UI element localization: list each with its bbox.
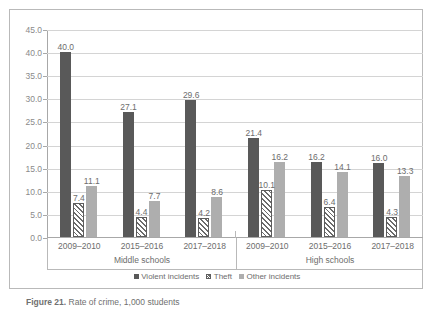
gridline [47,76,423,77]
bar-theft [324,207,335,237]
gridline [47,30,423,31]
x-axis-category-band: 2009–20102015–20162017–20182009–20102015… [47,238,423,270]
y-axis-tick-label: 20.0 [25,141,42,151]
bar-value-label: 13.3 [397,166,414,176]
y-axis-tick-label: 40.0 [25,48,42,58]
bar-value-label: 6.4 [324,197,336,207]
x-axis-group-label: High schools [306,255,355,265]
x-axis-period-label: 2009–2010 [58,241,101,251]
y-axis-tick-label: 10.0 [25,187,42,197]
x-axis-group-separator-tick [235,231,236,238]
bar-violent [311,162,322,237]
gridline [47,99,423,100]
bar-value-label: 10.1 [259,180,276,190]
gridline [47,146,423,147]
x-axis-period-label: 2017–2018 [183,241,226,251]
y-axis-tick-label: 35.0 [25,71,42,81]
legend-item[interactable]: Violent incidents [134,272,200,281]
figure-frame: 45.040.035.030.025.020.015.010.05.00.0 4… [9,9,423,289]
bar-violent [185,100,196,237]
bar-value-label: 16.2 [272,152,289,162]
y-axis-tick-mark [43,169,47,170]
bar-value-label: 11.1 [84,176,100,186]
bar-value-label: 14.1 [334,162,351,172]
legend-item[interactable]: Theft [206,272,232,281]
bar-value-label: 27.1 [120,102,137,112]
y-axis-tick-label: 45.0 [25,25,42,35]
x-axis-group-label: Middle schools [114,255,170,265]
bar-value-label: 4.3 [386,207,398,217]
bar-value-label: 4.4 [136,207,148,217]
figure-caption: Figure 21. Rate of crime, 1,000 students [26,297,426,309]
legend-swatch-icon [206,274,211,279]
gridline [47,53,423,54]
bar-theft [386,217,397,237]
bar-other [274,162,285,237]
x-axis-period-label: 2017–2018 [371,241,414,251]
bar-violent [123,112,134,237]
bar-other [149,201,160,237]
legend-item[interactable]: Other incidents [239,272,300,281]
bar-violent [373,163,384,237]
bar-violent [60,52,71,237]
bar-theft [198,218,209,237]
legend-item-label: Violent incidents [141,272,199,281]
y-axis-tick-label: 15.0 [25,164,42,174]
y-axis-tick-label: 0.0 [30,233,42,243]
bar-value-label: 40.0 [58,42,75,52]
chart-legend: Violent incidentsTheftOther incidents [10,272,424,281]
y-axis-tick-mark [43,76,47,77]
bar-value-label: 21.4 [246,128,263,138]
gridline [47,122,423,123]
y-axis-line [47,30,48,238]
x-axis-period-label: 2015–2016 [121,241,164,251]
y-axis-tick-mark [43,192,47,193]
y-axis-tick-mark [43,215,47,216]
x-axis-period-label: 2009–2010 [246,241,289,251]
bar-theft [261,190,272,237]
bar-other [337,172,348,237]
chart-plot-area: 45.040.035.030.025.020.015.010.05.00.0 4… [47,30,423,238]
legend-item-label: Theft [214,272,232,281]
bar-value-label: 7.7 [149,191,161,201]
legend-swatch-icon [239,274,244,279]
y-axis-tick-mark [43,99,47,100]
figure-caption-text: Rate of crime, 1,000 students [69,297,180,307]
figure-caption-number: Figure 21. [26,297,66,307]
y-axis-tick-label: 30.0 [25,94,42,104]
bar-value-label: 29.6 [183,90,200,100]
x-axis-group-separator [236,238,237,269]
y-axis-tick-mark [43,146,47,147]
bar-other [211,197,222,237]
y-axis-tick-label: 25.0 [25,117,42,127]
bar-value-label: 16.0 [371,153,388,163]
bar-value-label: 7.4 [73,193,85,203]
gridline [47,215,423,216]
y-axis-tick-label: 5.0 [30,210,42,220]
bar-theft [136,217,147,237]
bar-other [399,176,410,237]
y-axis-tick-mark [43,53,47,54]
bar-value-label: 4.2 [198,208,210,218]
x-axis-period-label: 2015–2016 [309,241,352,251]
gridline [47,169,423,170]
bar-value-label: 8.6 [211,187,223,197]
bar-value-label: 16.2 [308,152,325,162]
gridline [47,192,423,193]
bar-other [86,186,97,237]
bar-theft [73,203,84,237]
legend-item-label: Other incidents [247,272,301,281]
legend-swatch-icon [134,274,139,279]
y-axis-tick-mark [43,122,47,123]
y-axis-tick-mark [43,30,47,31]
bar-violent [248,138,259,237]
